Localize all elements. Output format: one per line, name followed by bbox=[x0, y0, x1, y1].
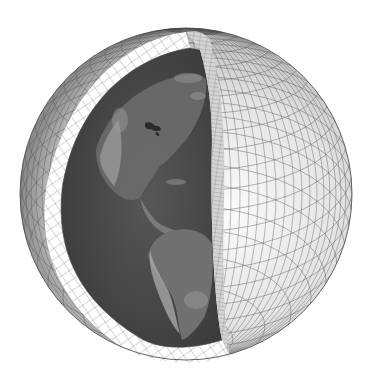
pole-shading bbox=[160, 17, 240, 35]
cutaway-globe-diagram bbox=[0, 0, 372, 384]
